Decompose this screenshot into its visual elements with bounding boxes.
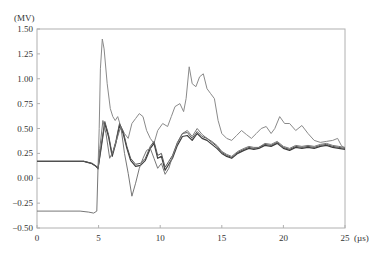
y-tick-label: −0.50: [12, 223, 33, 233]
y-tick-label: 0.25: [17, 148, 33, 158]
y-tick-label: 0.75: [17, 99, 33, 109]
x-tick-label: 20: [279, 233, 289, 243]
y-axis-unit-label: (MV): [14, 13, 35, 23]
y-axis-ticks: 1.501.251.000.750.500.250.00−0.25−0.50: [12, 24, 40, 233]
plot-series: [37, 39, 345, 213]
y-tick-label: 1.25: [17, 49, 33, 59]
x-tick-label: 5: [96, 233, 101, 243]
waveform-chart: (MV) 1.501.251.000.750.500.250.00−0.25−0…: [0, 0, 384, 257]
x-tick-label: 0: [35, 233, 40, 243]
x-tick-label: 15: [217, 233, 227, 243]
y-tick-label: 1.50: [17, 24, 33, 34]
y-tick-label: −0.25: [12, 198, 33, 208]
x-tick-label: 25: [341, 233, 351, 243]
x-axis-unit-label: (µs): [354, 233, 369, 243]
y-tick-label: 0.50: [17, 124, 33, 134]
x-tick-label: 10: [156, 233, 166, 243]
y-tick-label: 1.00: [17, 74, 33, 84]
lower-waveform-line: [37, 121, 345, 214]
upper-waveform-line: [37, 39, 345, 168]
y-tick-label: 0.00: [17, 173, 33, 183]
